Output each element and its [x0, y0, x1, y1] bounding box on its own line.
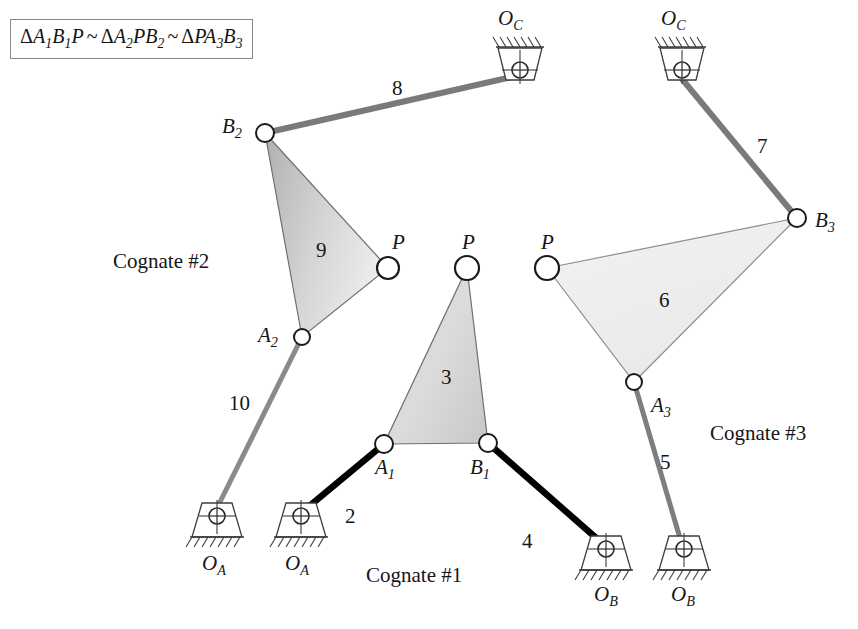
formula-term-2: A2PB2 [114, 25, 165, 47]
similarity-formula-box: ΔA1B1P~ΔA2PB2~ΔPA3B3 [10, 19, 253, 59]
coupler-triangle-3 [384, 268, 488, 444]
joint-label-a1-base: A [375, 455, 388, 479]
link-10-label: 10 [229, 393, 250, 414]
formula-term-1: A1B1P [33, 25, 84, 47]
coupler-triangle-6 [547, 218, 797, 382]
joint-label-a1: A1 [375, 457, 395, 481]
ground-label-ob-left-base: O [594, 582, 609, 606]
triangles-group [265, 133, 797, 444]
cognate-3-label: Cognate #3 [710, 423, 806, 444]
ground-support-ob-right [653, 533, 711, 580]
ground-label-oc-right-base: O [661, 6, 676, 30]
joint-label-b1-base: B [470, 455, 483, 479]
formula-delta-3: Δ [181, 25, 194, 47]
ground-label-oc-right: OC [661, 8, 686, 32]
ground-label-oa-left: OA [202, 553, 226, 577]
joint-label-a3-sub: 3 [664, 404, 671, 420]
cognate-1-label: Cognate #1 [366, 565, 462, 586]
joint-label-b3-base: B [815, 208, 828, 232]
formula-similar-2: ~ [164, 25, 181, 47]
ground-label-ob-right: OB [671, 584, 695, 608]
ground-label-oc-right-sub: C [676, 17, 686, 33]
joint-label-p-cognate2: P [392, 232, 405, 253]
link-8-label: 8 [392, 78, 403, 99]
kinematic-diagram [0, 0, 858, 629]
ground-label-ob-left-sub: B [609, 593, 618, 609]
link-5-label: 5 [660, 452, 671, 473]
formula-delta-2: Δ [101, 25, 114, 47]
joint-b2 [256, 124, 274, 142]
joint-label-b3-sub: 3 [828, 219, 835, 235]
joint-label-b2-sub: 2 [235, 125, 242, 141]
ground-label-ob-left: OB [594, 584, 618, 608]
joint-label-b3: B3 [815, 210, 835, 234]
joint-label-a2: A2 [258, 325, 278, 349]
joint-a3 [626, 374, 642, 390]
link-9-label: 9 [316, 240, 327, 261]
coupler-triangle-9 [265, 133, 388, 337]
joint-a2 [294, 329, 310, 345]
link-6-label: 6 [659, 290, 670, 311]
joint-label-a1-sub: 1 [388, 466, 395, 482]
joint-label-p1-base: P [462, 230, 475, 254]
ground-label-oc-left: OC [498, 8, 523, 32]
ground-support-oc-right [655, 37, 706, 84]
ground-label-oa-left-sub: A [217, 562, 226, 578]
link-7-bar [682, 79, 797, 218]
joint-p-cognate2 [377, 257, 399, 279]
joint-label-p-cognate3: P [541, 232, 554, 253]
joint-label-p-cognate1: P [462, 232, 475, 253]
link-8-bar [265, 76, 516, 133]
ground-support-oa-right [270, 500, 328, 547]
ground-label-oa-left-base: O [202, 551, 217, 575]
formula-delta-1: Δ [20, 25, 33, 47]
ground-support-ob-left [575, 533, 633, 580]
link-10-bar [217, 337, 302, 508]
link-7-label: 7 [757, 136, 768, 157]
figure-canvas: ΔA1B1P~ΔA2PB2~ΔPA3B3 Cognate #2 Cognate … [0, 0, 858, 629]
joint-label-b1-sub: 1 [483, 466, 490, 482]
joint-b3 [788, 209, 806, 227]
link-3-label: 3 [441, 367, 452, 388]
ground-label-oa-right-sub: A [300, 562, 309, 578]
joint-label-p3-base: P [541, 230, 554, 254]
joint-p-cognate1 [455, 256, 479, 280]
joint-a1 [375, 435, 393, 453]
ground-label-ob-right-sub: B [686, 593, 695, 609]
joint-label-a3-base: A [651, 393, 664, 417]
joint-label-p2-base: P [392, 230, 405, 254]
ground-label-oc-left-base: O [498, 6, 513, 30]
ground-label-oc-left-sub: C [513, 17, 523, 33]
ground-label-oa-right-base: O [285, 551, 300, 575]
cognate-2-label: Cognate #2 [113, 251, 209, 272]
formula-similar-1: ~ [84, 25, 101, 47]
joint-label-b2: B2 [222, 116, 242, 140]
joint-label-a3: A3 [651, 395, 671, 419]
ground-label-oa-right: OA [285, 553, 309, 577]
link-4-label: 4 [522, 531, 533, 552]
joint-label-a2-base: A [258, 323, 271, 347]
joint-b1 [479, 434, 497, 452]
link-4-bar [488, 443, 603, 544]
ground-label-ob-right-base: O [671, 582, 686, 606]
formula-term-3: PA3B3 [194, 25, 242, 47]
joint-p-cognate3 [535, 256, 559, 280]
joint-label-b1: B1 [470, 457, 490, 481]
ground-support-oa-left [186, 500, 244, 547]
joint-label-b2-base: B [222, 114, 235, 138]
joint-label-a2-sub: 2 [271, 334, 278, 350]
link-2-label: 2 [345, 506, 356, 527]
